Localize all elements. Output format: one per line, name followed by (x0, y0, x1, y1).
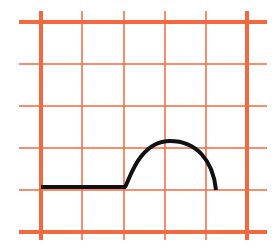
grid-diagram (0, 0, 279, 250)
grid-lines (19, 11, 267, 240)
